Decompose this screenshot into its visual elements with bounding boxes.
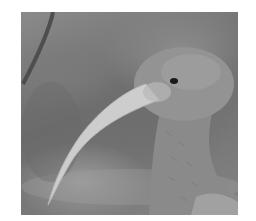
branch — [23, 12, 53, 84]
bird-photo — [21, 12, 238, 215]
ibis-illustration — [21, 12, 238, 215]
eye — [170, 78, 178, 84]
